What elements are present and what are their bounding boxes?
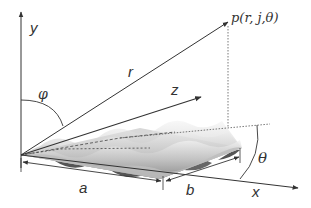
phi-label: φ (38, 86, 48, 102)
y-axis-label: y (29, 19, 39, 36)
theta-arc (240, 125, 258, 179)
coordinate-diagram: y z x r φ θ p(r, j,θ) a b (0, 0, 311, 208)
dimension-b-label: b (186, 181, 194, 198)
wavy-surface (21, 121, 242, 179)
point-label: p(r, j,θ) (231, 10, 279, 25)
x-axis-label: x (251, 183, 260, 200)
phi-arc (21, 100, 63, 126)
radius-label: r (128, 63, 134, 80)
z-axis-label: z (170, 81, 179, 98)
theta-label: θ (258, 149, 267, 167)
dimension-a-label: a (79, 179, 87, 196)
